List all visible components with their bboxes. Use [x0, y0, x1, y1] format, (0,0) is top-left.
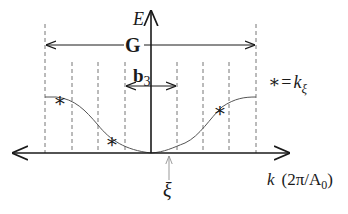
- star-marker: ∗: [53, 89, 67, 111]
- legend-sub: ξ: [301, 81, 307, 96]
- k-xi-markers: ∗ ∗ ∗: [53, 89, 227, 152]
- G-label: G: [125, 34, 141, 56]
- band-diagram: E G b3 ∗ ∗ ∗ ∗=kξ ξ k(2π/A0): [0, 0, 348, 214]
- legend-equals: =: [281, 72, 291, 92]
- k-axis-close: ): [327, 170, 333, 189]
- diagram-canvas: E G b3 ∗ ∗ ∗ ∗=kξ ξ k(2π/A0): [0, 0, 348, 214]
- legend-star: ∗: [268, 72, 280, 92]
- star-legend: ∗=kξ: [268, 72, 307, 96]
- energy-axis-label: E: [132, 9, 144, 29]
- xi-label: ξ: [163, 179, 172, 201]
- b3-label-sub: 3: [144, 74, 151, 89]
- k-axis-label: k(2π/A0): [267, 170, 333, 192]
- b3-label-main: b: [133, 65, 144, 86]
- star-marker: ∗: [213, 99, 227, 121]
- k-axis-var: k: [267, 170, 275, 189]
- b3-label: b3: [133, 65, 151, 89]
- k-axis-units: (2π/A: [282, 170, 322, 189]
- star-marker: ∗: [105, 130, 119, 152]
